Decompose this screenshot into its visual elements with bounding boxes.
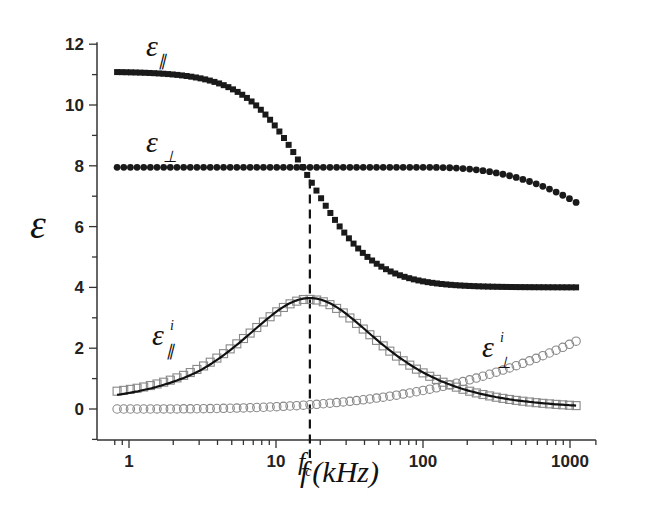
label-eps-perp: ε ⊥ (146, 125, 177, 165)
y-tick-label: 0 (75, 400, 84, 419)
svg-text:∥: ∥ (166, 342, 175, 360)
y-tick-label: 8 (75, 157, 84, 176)
y-axis-label: ε (30, 202, 46, 247)
x-axis-label: f(kHz) (300, 455, 379, 489)
plot-area (113, 69, 580, 458)
svg-text:ε: ε (152, 318, 164, 351)
svg-text:⊥: ⊥ (163, 148, 177, 165)
svg-text:i: i (500, 330, 504, 345)
x-tick-label: 1000 (551, 452, 589, 471)
svg-text:ε: ε (146, 125, 158, 158)
label-eps-par: ε ∥ (146, 29, 167, 70)
svg-text:ε: ε (482, 330, 494, 363)
svg-text:i: i (170, 318, 174, 333)
x-tick-label: 10 (267, 452, 286, 471)
y-tick-label: 4 (75, 278, 85, 297)
y-tick-label: 12 (65, 35, 84, 54)
labels: ε f(kHz) fc ε ∥ ε ⊥ ε i ∥ ε i ⊥ (30, 29, 511, 489)
svg-text:∥: ∥ (158, 52, 167, 70)
chart: 0246810121101001000 ε f(kHz) fc ε ∥ ε ⊥ … (0, 0, 645, 532)
axes: 0246810121101001000 (65, 35, 596, 471)
svg-text:⊥: ⊥ (497, 354, 511, 371)
y-tick-label: 2 (75, 339, 84, 358)
label-eps-par-imag: ε i ∥ (152, 318, 175, 360)
y-tick-label: 6 (75, 218, 84, 237)
label-eps-perp-imag: ε i ⊥ (482, 330, 511, 371)
svg-text:ε: ε (146, 29, 158, 62)
x-tick-label: 1 (124, 452, 133, 471)
y-tick-label: 10 (65, 96, 84, 115)
fit-line (117, 298, 576, 406)
x-tick-label: 100 (409, 452, 437, 471)
